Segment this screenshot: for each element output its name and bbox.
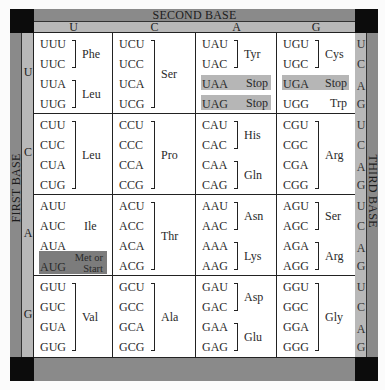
codon: CCC: [119, 138, 143, 152]
amino-acid-label: Thr: [161, 229, 178, 243]
amino-acid-label: His: [244, 128, 261, 142]
bracket-icon: [234, 283, 238, 311]
codon: CCG: [119, 178, 144, 192]
codon: AAU: [202, 199, 228, 213]
third-base-letter: C: [355, 57, 367, 72]
codon: UGU: [283, 37, 309, 51]
bracket-icon: [151, 283, 155, 351]
amino-acid-label: Leu: [82, 87, 101, 101]
amino-acid-label: Val: [82, 310, 98, 324]
codon: AUC: [40, 219, 65, 233]
amino-acid-label: Ser: [325, 209, 341, 223]
cell-ga: GAUGACGAAGAGAspGlu: [196, 276, 277, 357]
third-base-letter: C: [355, 300, 367, 315]
codon: UUA: [40, 77, 66, 91]
cell-gc: GCUGCCGCAGCGAla: [113, 276, 196, 357]
cell-cg: CGUCGCCGACGGArg: [277, 114, 355, 195]
corner-bottom-right: [355, 357, 378, 381]
codon: ACC: [119, 219, 144, 233]
cell-uu: UUUUUCUUAUUGPheLeu: [34, 33, 113, 114]
second-base-letter-g: G: [277, 22, 355, 33]
codon: GGU: [283, 280, 309, 294]
codon: UUU: [40, 37, 66, 51]
amino-acid-label: Ala: [161, 310, 178, 324]
codon: UCU: [119, 37, 144, 51]
bracket-icon: [234, 202, 238, 230]
codon: GUA: [40, 320, 66, 334]
codon: AGU: [283, 199, 309, 213]
codon: GGG: [283, 340, 309, 354]
codon: GUG: [40, 340, 66, 354]
codon: GAA: [202, 320, 228, 334]
bracket-icon: [151, 202, 155, 270]
amino-acid-label: Asn: [244, 209, 263, 223]
codon: UAA: [202, 77, 228, 91]
amino-acid-label: Lys: [244, 249, 261, 263]
codon: AUA: [40, 239, 66, 253]
bracket-icon: [315, 283, 319, 351]
bracket-icon: [234, 242, 238, 270]
third-base-letter: U: [355, 37, 367, 52]
stop-label: Stop: [246, 96, 268, 110]
cell-uc: UCUUCCUCAUCGSer: [113, 33, 196, 114]
third-base-letter: U: [355, 118, 367, 133]
first-base-letter-g: G: [22, 307, 34, 322]
codon: UCG: [119, 97, 144, 111]
bracket-icon: [315, 242, 319, 270]
amino-acid-label: Cys: [325, 47, 344, 61]
second-base-letter-c: C: [113, 22, 196, 33]
bracket-icon: [72, 40, 76, 68]
codon: CUC: [40, 138, 65, 152]
cell-cu: CUUCUCCUACUGLeu: [34, 114, 113, 195]
codon: GAG: [202, 340, 228, 354]
stop-label: Stop: [325, 76, 347, 90]
amino-acid-label: Asp: [244, 290, 263, 304]
cell-cc: CCUCCCCCACCGPro: [113, 114, 196, 195]
amino-acid-label: Phe: [82, 47, 100, 61]
amino-acid-label: Gln: [244, 168, 262, 182]
codon: GUU: [40, 280, 66, 294]
second-base-letter-a: A: [196, 22, 277, 33]
amino-acid-label: Pro: [161, 148, 178, 162]
codon: AGC: [283, 219, 308, 233]
codon: CUA: [40, 158, 65, 172]
codon: CAA: [202, 158, 227, 172]
cell-ca: CAUCACCAACAGHisGln: [196, 114, 277, 195]
third-base-letter: A: [355, 79, 367, 94]
codon: UUG: [40, 97, 66, 111]
codon: UGA: [283, 77, 309, 91]
second-base-title: SECOND BASE: [34, 9, 355, 22]
codon: CCU: [119, 118, 144, 132]
codon: GCA: [119, 320, 144, 334]
bottom-bar: [34, 357, 355, 381]
bracket-icon: [315, 121, 319, 189]
first-base-letter-a: A: [22, 226, 34, 241]
bracket-icon: [315, 40, 319, 68]
codon: AUU: [40, 199, 66, 213]
third-base-letter: A: [355, 160, 367, 175]
codon: CCA: [119, 158, 144, 172]
third-base-letter: U: [355, 199, 367, 214]
bracket-icon: [234, 323, 238, 351]
codon: CAG: [202, 178, 227, 192]
amino-acid-label: Arg: [325, 148, 343, 162]
codon: GAU: [202, 280, 228, 294]
codon: GCU: [119, 280, 144, 294]
codon: ACG: [119, 259, 144, 273]
codon: GCC: [119, 300, 144, 314]
corner-top-left: [10, 9, 34, 33]
codon: UAG: [202, 97, 228, 111]
bracket-icon: [72, 283, 76, 351]
codon: ACA: [119, 239, 144, 253]
cell-gg: GGUGGCGGAGGGGly: [277, 276, 355, 357]
cell-au: Met orStartAUUAUCAUAAUGIle: [34, 195, 113, 276]
codon: UGC: [283, 57, 308, 71]
third-base-letter: A: [355, 241, 367, 256]
codon: GCG: [119, 340, 144, 354]
corner-top-right: [355, 9, 378, 33]
bracket-icon: [151, 121, 155, 189]
first-base-letter-c: C: [22, 145, 34, 160]
third-base-letter: U: [355, 280, 367, 295]
codon: CGG: [283, 178, 308, 192]
amino-acid-label: Glu: [244, 330, 262, 344]
